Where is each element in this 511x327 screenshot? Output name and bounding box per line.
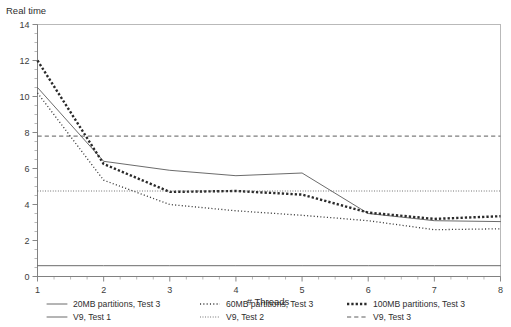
y-tick-label: 6	[24, 164, 29, 174]
legend-label-4: V9, Test 2	[226, 312, 264, 322]
x-tick-label: 7	[432, 285, 437, 295]
legend-label-2: 100MB partitions, Test 3	[373, 299, 465, 309]
x-tick-label: 5	[300, 285, 305, 295]
y-tick-label: 14	[19, 20, 29, 30]
y-tick-label: 0	[24, 272, 29, 282]
y-tick-label: 8	[24, 128, 29, 138]
x-tick-label: 6	[366, 285, 371, 295]
legend-label-3: V9, Test 1	[73, 312, 111, 322]
x-tick-label: 4	[233, 285, 238, 295]
y-tick-label: 12	[19, 56, 29, 66]
x-tick-label: 8	[498, 285, 503, 295]
x-tick-label: 2	[101, 285, 106, 295]
y-tick-label: 10	[19, 92, 29, 102]
real-time-vs-threads-line-chart: Real time 02468101214 12345678 # Threads…	[0, 0, 511, 327]
legend-label-1: 60MB partitions, Test 3	[226, 299, 313, 309]
x-tick-label: 1	[35, 285, 40, 295]
y-tick-label: 4	[24, 200, 29, 210]
y-tick-label: 2	[24, 236, 29, 246]
chart-container: Real time 02468101214 12345678 # Threads…	[0, 0, 511, 327]
legend-label-0: 20MB partitions, Test 3	[73, 299, 160, 309]
legend-label-5: V9, Test 3	[373, 312, 411, 322]
y-axis-title: Real time	[6, 5, 46, 16]
x-tick-label: 3	[167, 285, 172, 295]
